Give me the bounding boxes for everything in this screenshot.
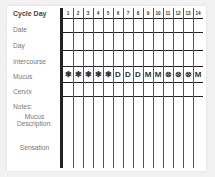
- grid-line: [83, 8, 84, 168]
- grid-line: [163, 8, 164, 168]
- grid-line: [73, 8, 74, 168]
- day-number: 11: [163, 9, 173, 18]
- grid-line: [60, 18, 203, 19]
- grid-line: [113, 8, 114, 168]
- grid-line: [60, 66, 203, 67]
- mucus-mark: M: [153, 69, 163, 81]
- grid-line: [183, 8, 184, 168]
- label-mucus-description-line2: Description:: [7, 120, 62, 128]
- grid-line: [133, 8, 134, 168]
- day-number: 7: [123, 9, 133, 18]
- day-number: 13: [183, 9, 193, 18]
- grid-line: [60, 96, 203, 97]
- grid-line: [173, 8, 174, 168]
- grid-line: [123, 8, 124, 168]
- day-number: 1: [63, 9, 73, 18]
- day-number: 14: [193, 9, 203, 18]
- mucus-mark: M: [193, 69, 203, 81]
- label-cycle-day: Cycle Day: [13, 10, 46, 18]
- day-number: 3: [83, 9, 93, 18]
- day-number: 10: [153, 9, 163, 18]
- label-cervix: Cervix: [13, 88, 32, 96]
- mucus-mark: ✱: [83, 69, 93, 81]
- grid-line: [60, 32, 203, 33]
- grid-line: [60, 8, 63, 168]
- mucus-mark: M: [143, 69, 153, 81]
- grid-line: [60, 82, 203, 83]
- label-sensation: Sensation: [7, 144, 62, 152]
- day-number: 2: [73, 9, 83, 18]
- mucus-mark: ✱: [73, 69, 83, 81]
- mucus-mark: ✱: [93, 69, 103, 81]
- mucus-mark: ⊗: [173, 69, 183, 81]
- cycle-chart: Cycle Day Date Day Intercourse Mucus Cer…: [7, 6, 206, 171]
- row-labels: Cycle Day Date Day Intercourse Mucus Cer…: [7, 6, 62, 171]
- day-number: 9: [143, 9, 153, 18]
- label-notes: Notes:: [13, 103, 32, 111]
- mucus-mark: ✱: [103, 69, 113, 81]
- label-date: Date: [13, 26, 27, 34]
- label-day: Day: [13, 42, 25, 50]
- day-number: 4: [93, 9, 103, 18]
- grid-line: [60, 50, 203, 51]
- mucus-mark: ✱: [63, 69, 73, 81]
- label-intercourse: Intercourse: [13, 58, 46, 66]
- day-number: 8: [133, 9, 143, 18]
- grid-line: [143, 8, 144, 168]
- label-mucus: Mucus: [13, 73, 32, 81]
- chart-grid: 1 2 3 4 5 6 7 8 9 10 11 12 13 14 ✱ ✱ ✱ ✱…: [60, 8, 203, 168]
- mucus-mark: D: [113, 69, 123, 81]
- mucus-mark: D: [123, 69, 133, 81]
- day-number: 12: [173, 9, 183, 18]
- mucus-mark: ⊗: [183, 69, 193, 81]
- mucus-mark: ⊗: [163, 69, 173, 81]
- mucus-mark: D: [133, 69, 143, 81]
- grid-line: [153, 8, 154, 168]
- day-number: 5: [103, 9, 113, 18]
- grid-line: [193, 8, 194, 168]
- grid-line: [93, 8, 94, 168]
- day-number: 6: [113, 9, 123, 18]
- grid-line: [103, 8, 104, 168]
